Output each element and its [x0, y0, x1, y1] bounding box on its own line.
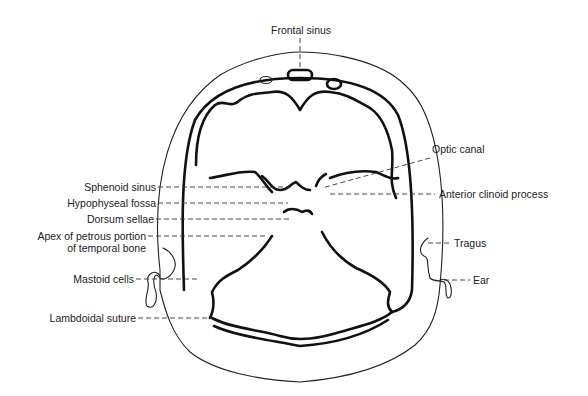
label-apex-petrous-line2: of temporal bone — [67, 242, 146, 254]
label-dorsum-sellae: Dorsum sellae — [87, 213, 154, 225]
sella-structures — [262, 174, 326, 214]
label-mastoid-cells: Mastoid cells — [73, 273, 134, 285]
petrous-ridge-right — [322, 232, 392, 312]
label-lambdoidal-suture: Lambdoidal suture — [50, 312, 136, 324]
label-frontal-sinus: Frontal sinus — [271, 24, 331, 36]
label-tragus: Tragus — [454, 237, 486, 249]
label-hypophyseal-fossa: Hypophyseal fossa — [67, 197, 156, 209]
skull-outer-table — [183, 78, 413, 312]
leader-optic-canal — [322, 158, 430, 188]
posterior-fossa — [212, 312, 392, 346]
label-optic-canal: Optic canal — [432, 143, 485, 155]
label-anterior-clinoid-process: Anterior clinoid process — [439, 188, 548, 200]
label-ear: Ear — [473, 274, 489, 286]
petrous-ridge-left — [210, 236, 272, 318]
label-sphenoid-sinus: Sphenoid sinus — [84, 181, 156, 193]
skin-outline — [158, 52, 443, 382]
label-apex-petrous-line1: Apex of petrous portion — [37, 230, 146, 242]
right-ear — [421, 238, 452, 298]
